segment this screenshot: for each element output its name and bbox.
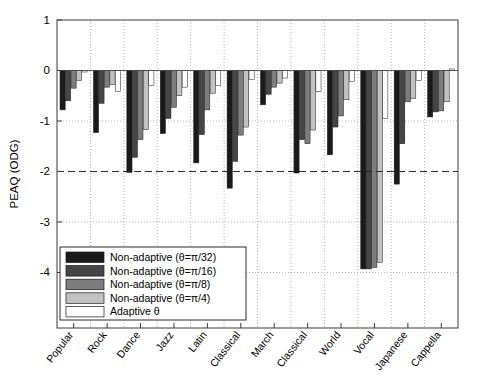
bar	[171, 70, 176, 107]
bar	[316, 70, 321, 91]
y-tick-label: -3	[40, 216, 50, 228]
bar	[305, 70, 310, 143]
bar	[160, 70, 165, 133]
bar	[405, 70, 410, 101]
bar	[400, 70, 405, 143]
bar	[271, 70, 276, 87]
bar	[338, 70, 343, 115]
bar	[99, 70, 104, 103]
legend-label: Non-adaptive (θ=π/16)	[110, 265, 216, 277]
y-tick-label: -1	[40, 115, 50, 127]
bar	[216, 70, 221, 85]
legend-label: Non-adaptive (θ=π/32)	[110, 251, 216, 263]
bar	[411, 70, 416, 98]
bar	[383, 70, 388, 118]
bar	[149, 70, 154, 85]
bar	[261, 70, 266, 104]
bar	[299, 70, 304, 139]
bar	[372, 70, 377, 267]
bar	[177, 70, 182, 95]
bar	[110, 70, 115, 84]
bar	[182, 70, 187, 87]
bar	[60, 70, 65, 109]
chart-legend: Non-adaptive (θ=π/32)Non-adaptive (θ=π/1…	[60, 247, 246, 320]
bar	[166, 70, 171, 118]
bar	[428, 70, 433, 116]
legend-swatch	[66, 293, 104, 304]
bar	[71, 70, 76, 88]
bar	[205, 70, 210, 109]
bar	[377, 70, 382, 262]
bar	[227, 70, 232, 188]
bar	[433, 70, 438, 111]
bar	[199, 70, 204, 134]
bar	[143, 70, 148, 129]
y-tick-label: 1	[44, 14, 50, 26]
y-tick-label: 0	[44, 64, 50, 76]
bar	[210, 70, 215, 93]
chart-background	[0, 0, 481, 388]
bar	[439, 70, 444, 110]
bar	[244, 70, 249, 127]
legend-swatch	[66, 266, 104, 277]
bar	[416, 70, 421, 80]
y-tick-label: -2	[40, 165, 50, 177]
legend-label: Non-adaptive (θ=π/4)	[110, 292, 210, 304]
legend-swatch	[66, 279, 104, 290]
bar	[233, 70, 238, 161]
y-tick-label: -4	[40, 266, 51, 278]
chart-container: 10-1-2-3-4 PopularRockDanceJazzLatinClas…	[0, 0, 481, 388]
bar	[104, 70, 109, 87]
bar	[349, 70, 354, 81]
bar	[361, 70, 366, 268]
peaq-odg-grouped-bar-chart: 10-1-2-3-4 PopularRockDanceJazzLatinClas…	[0, 0, 481, 388]
bar	[138, 70, 143, 139]
bar	[327, 70, 332, 154]
bar	[93, 70, 98, 132]
legend-label: Non-adaptive (θ=π/8)	[110, 278, 210, 290]
bar	[266, 70, 271, 94]
bar	[333, 70, 338, 127]
bar	[366, 70, 371, 268]
bar	[76, 70, 81, 80]
legend-label: Adaptive θ	[110, 305, 160, 317]
y-axis-title: PEAQ (ODG)	[8, 139, 20, 208]
bar	[310, 70, 315, 130]
bar	[344, 70, 349, 99]
bar	[115, 70, 120, 91]
bar	[444, 70, 449, 101]
legend-swatch	[66, 252, 104, 263]
bar	[282, 70, 287, 78]
bar	[132, 70, 137, 157]
bar	[194, 70, 199, 162]
bar	[65, 70, 70, 100]
legend-swatch	[66, 306, 104, 317]
bar	[249, 70, 254, 79]
bar	[127, 70, 132, 172]
bar	[238, 70, 243, 135]
bar	[294, 70, 299, 172]
bar	[394, 70, 399, 184]
bar	[277, 70, 282, 83]
